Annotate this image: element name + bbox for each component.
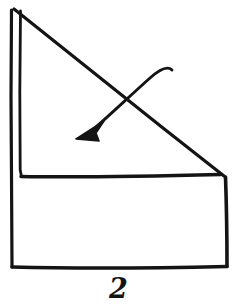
fold-diagram-canvas <box>0 0 237 307</box>
inner-horizontal-edge-path <box>21 175 221 177</box>
step-number-label: 2 <box>0 274 237 304</box>
inner-left-vertical-edge-path <box>20 11 22 177</box>
fold-diagram-figure: 2 <box>0 0 237 307</box>
outer-left-vertical-edge-path <box>11 10 12 267</box>
fold-arrow-shaft-path <box>96 68 172 127</box>
diagonal-hypotenuse-edge-path <box>14 9 224 176</box>
right-vertical-edge-path <box>226 177 228 267</box>
fold-arrow-head-icon <box>76 121 104 141</box>
bottom-horizontal-edge-path <box>12 267 227 268</box>
